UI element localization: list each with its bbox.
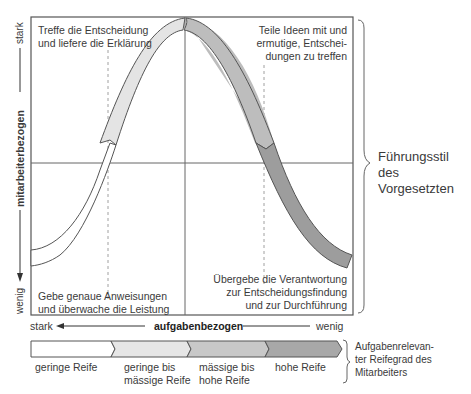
diagram-graphics — [0, 0, 471, 394]
x-axis-left-label: stark — [30, 320, 53, 333]
quadrant-top-right-text: Teile Ideen mit und ermutige, Entschei- … — [257, 24, 347, 63]
y-axis-bottom-label: wenig — [14, 288, 25, 314]
y-axis-title: mitarbeiterbezogen — [14, 110, 26, 207]
text-line: geringe Reife — [35, 361, 97, 374]
text-line: hohe Reife — [199, 374, 254, 387]
maturity-bar — [31, 341, 342, 357]
text-line: des Vorgesetzten — [378, 165, 471, 197]
maturity-label-low-moderate: geringe bis mässige Reife — [124, 361, 191, 387]
text-line: dungen zu treffen — [257, 50, 347, 63]
text-line: Führungsstil — [378, 149, 471, 165]
text-line: ermutige, Entschei- — [257, 37, 347, 50]
text-line: Mitarbeiters — [355, 366, 434, 379]
x-axis-arrow-left-icon — [56, 323, 64, 329]
quadrant-top-left-text: Treffe die Entscheidung und liefere die … — [38, 24, 152, 50]
y-axis-top-label: stark — [14, 22, 25, 44]
maturity-bracket-label: Aufgabenrelevan- ter Reifegrad des Mitar… — [355, 340, 434, 379]
quadrant-bottom-left-text: Gebe genaue Anweisungen und überwache di… — [38, 290, 169, 316]
text-line: ter Reifegrad des — [355, 353, 434, 366]
text-line: Aufgabenrelevan- — [355, 340, 434, 353]
text-line: Gebe genaue Anweisungen — [38, 290, 169, 303]
text-line: Treffe die Entscheidung — [38, 24, 152, 37]
brace-leadership-style — [358, 20, 370, 313]
curve-segment-low-maturity — [31, 143, 116, 266]
text-line: und liefere die Erklärung — [38, 37, 152, 50]
leadership-style-label: Führungsstil des Vorgesetzten — [378, 149, 471, 197]
text-line: hohe Reife — [275, 361, 326, 374]
maturity-label-low: geringe Reife — [35, 361, 97, 374]
y-axis-arrow-down-icon — [17, 273, 23, 282]
text-line: und überwache die Leistung — [38, 303, 169, 316]
text-line: Teile Ideen mit und — [257, 24, 347, 37]
maturity-label-moderate-high: mässige bis hohe Reife — [199, 361, 254, 387]
x-axis-title: aufgabenbezogen — [154, 320, 243, 333]
brace-maturity — [343, 340, 350, 383]
text-line: mässige bis — [199, 361, 254, 374]
x-axis-right-label: wenig — [316, 320, 343, 333]
quadrant-bottom-right-text: Übergebe die Verantwortung zur Entscheid… — [213, 273, 347, 312]
text-line: mässige Reife — [124, 374, 191, 387]
maturity-label-high: hohe Reife — [275, 361, 326, 374]
text-line: zur Entscheidungsfindung — [213, 286, 347, 299]
curve-segment-high-maturity — [256, 143, 352, 268]
text-line: und zur Durchführung — [213, 299, 347, 312]
text-line: Übergebe die Verantwortung — [213, 273, 347, 286]
text-line: geringe bis — [124, 361, 191, 374]
